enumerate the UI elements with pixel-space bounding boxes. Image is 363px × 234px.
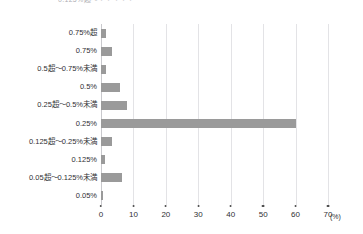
x-tick-label: 10	[129, 210, 138, 219]
tick-dot-icon	[165, 205, 167, 207]
x-tick: 60	[291, 205, 300, 219]
x-tick: 30	[194, 205, 203, 219]
category-label: 0.25超〜0.5%未満	[0, 96, 97, 114]
bar-row	[101, 187, 328, 205]
bar	[101, 83, 120, 92]
x-axis: 010203040506070	[101, 205, 328, 233]
bar-row	[101, 96, 328, 114]
tick-dot-icon	[132, 205, 134, 207]
category-label: 0.25%	[0, 115, 97, 133]
x-tick-label: 0	[99, 210, 103, 219]
bar	[101, 47, 112, 56]
bar-rows	[101, 24, 328, 205]
bar-row	[101, 60, 328, 78]
x-tick-label: 60	[291, 210, 300, 219]
bar	[101, 65, 106, 74]
bar-row	[101, 115, 328, 133]
gridline-70	[328, 24, 329, 205]
chart-title: 0.125%超〜・・・・・	[58, 0, 308, 4]
plot-area	[101, 24, 328, 205]
bar	[101, 119, 296, 128]
bar-row	[101, 133, 328, 151]
x-tick: 10	[129, 205, 138, 219]
tick-dot-icon	[327, 205, 329, 207]
category-label: 0.75%	[0, 42, 97, 60]
bar-row	[101, 24, 328, 42]
category-label: 0.05超〜0.125%未満	[0, 169, 97, 187]
x-tick: 20	[161, 205, 170, 219]
tick-dot-icon	[262, 205, 264, 207]
tick-dot-icon	[230, 205, 232, 207]
bar-row	[101, 151, 328, 169]
x-tick: 40	[226, 205, 235, 219]
bar-row	[101, 169, 328, 187]
tick-dot-icon	[294, 205, 296, 207]
bar	[101, 173, 122, 182]
x-axis-unit-label: (%)	[330, 213, 341, 220]
x-tick-label: 40	[226, 210, 235, 219]
tick-dot-icon	[100, 205, 102, 207]
category-axis-labels: 0.75%超0.75%0.5超〜0.75%未満0.5%0.25超〜0.5%未満0…	[0, 24, 97, 205]
bar-chart: 0.125%超〜・・・・・ 0.75%超0.75%0.5超〜0.75%未満0.5…	[0, 0, 363, 234]
category-label: 0.125%	[0, 151, 97, 169]
x-tick-label: 50	[259, 210, 268, 219]
bar	[101, 137, 112, 146]
bar-row	[101, 78, 328, 96]
x-tick: 0	[99, 205, 103, 219]
x-tick-label: 20	[161, 210, 170, 219]
bar	[101, 101, 127, 110]
x-tick: 50	[259, 205, 268, 219]
category-label: 0.125超〜0.25%未満	[0, 133, 97, 151]
category-label: 0.75%超	[0, 24, 97, 42]
category-label: 0.5%	[0, 78, 97, 96]
x-tick-label: 30	[194, 210, 203, 219]
category-label: 0.5超〜0.75%未満	[0, 60, 97, 78]
bar-row	[101, 42, 328, 60]
bar	[101, 155, 105, 164]
category-label: 0.05%	[0, 187, 97, 205]
tick-dot-icon	[197, 205, 199, 207]
bar	[101, 29, 106, 38]
bar	[101, 191, 103, 200]
